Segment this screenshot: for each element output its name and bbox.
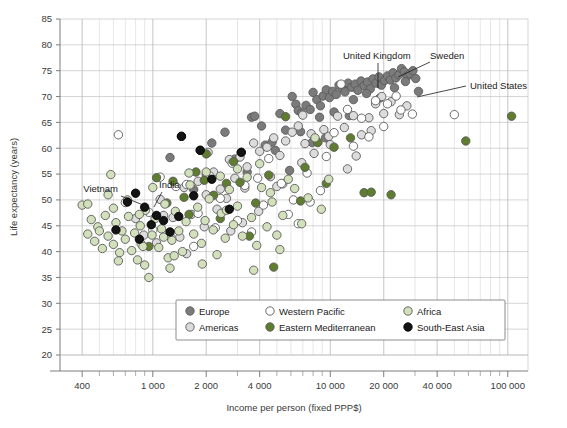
data-point bbox=[265, 171, 273, 179]
data-point bbox=[412, 74, 420, 82]
data-point bbox=[202, 168, 210, 176]
data-point bbox=[265, 154, 273, 162]
data-point bbox=[316, 186, 324, 194]
data-point bbox=[365, 133, 373, 141]
data-point bbox=[166, 228, 174, 236]
x-tick-label: 400 bbox=[74, 380, 90, 391]
data-point bbox=[322, 152, 330, 160]
data-point bbox=[104, 232, 112, 240]
data-point bbox=[507, 112, 515, 120]
data-point bbox=[330, 129, 338, 137]
annotation-label: Vietnam bbox=[83, 183, 118, 194]
legend[interactable]: EuropeWestern PacificAfricaAmericasEaste… bbox=[176, 300, 505, 340]
y-tick-label: 45 bbox=[41, 220, 52, 231]
x-tick-label: 1 000 bbox=[141, 380, 165, 391]
data-point bbox=[294, 122, 302, 130]
data-point bbox=[317, 205, 325, 213]
data-point bbox=[409, 66, 417, 74]
data-point bbox=[166, 153, 174, 161]
legend-label-americas[interactable]: Americas bbox=[199, 322, 239, 333]
legend-label-europe[interactable]: Europe bbox=[199, 306, 230, 317]
annotations: VietnamIndiaUnited KingdomSwedenUnited S… bbox=[83, 50, 527, 207]
data-point bbox=[352, 152, 360, 160]
x-tick-label: 10 000 bbox=[316, 380, 345, 391]
y-tick-label: 20 bbox=[41, 349, 52, 360]
data-point bbox=[380, 109, 388, 117]
data-point bbox=[190, 192, 198, 200]
data-point bbox=[392, 92, 400, 100]
data-point bbox=[252, 199, 260, 207]
data-point bbox=[276, 151, 284, 159]
data-point bbox=[178, 247, 186, 255]
y-tick-label: 55 bbox=[41, 168, 52, 179]
data-point bbox=[131, 189, 139, 197]
legend-swatch-europe bbox=[186, 307, 194, 315]
data-point bbox=[135, 210, 143, 218]
legend-label-western_pacific[interactable]: Western Pacific bbox=[279, 306, 345, 317]
data-point bbox=[182, 217, 190, 225]
data-point bbox=[145, 273, 153, 281]
data-point bbox=[197, 239, 205, 247]
y-tick-label: 75 bbox=[41, 65, 52, 76]
data-point bbox=[133, 256, 141, 264]
data-point bbox=[225, 205, 233, 213]
data-point bbox=[198, 260, 206, 268]
data-point bbox=[333, 112, 341, 120]
data-point bbox=[149, 183, 157, 191]
annotation-label: United States bbox=[470, 80, 527, 91]
data-point bbox=[380, 122, 388, 130]
data-point bbox=[114, 257, 122, 265]
x-tick-label: 40 000 bbox=[423, 380, 452, 391]
data-point bbox=[371, 96, 379, 104]
data-point bbox=[175, 212, 183, 220]
data-point bbox=[408, 110, 416, 118]
data-point bbox=[301, 139, 309, 147]
data-point bbox=[383, 100, 391, 108]
data-point bbox=[387, 191, 395, 199]
data-point bbox=[233, 165, 241, 173]
data-point bbox=[279, 211, 287, 219]
data-point bbox=[462, 137, 470, 145]
data-point bbox=[201, 216, 209, 224]
data-point bbox=[259, 201, 267, 209]
data-point bbox=[330, 143, 338, 151]
data-point bbox=[304, 194, 312, 202]
legend-swatch-eastern_mediterranean bbox=[266, 323, 274, 331]
legend-label-africa[interactable]: Africa bbox=[417, 306, 442, 317]
data-point bbox=[257, 122, 265, 130]
data-point bbox=[340, 123, 348, 131]
legend-label-south_east_asia[interactable]: South-East Asia bbox=[417, 322, 485, 333]
data-point bbox=[140, 261, 148, 269]
y-tick-label: 65 bbox=[41, 117, 52, 128]
data-point bbox=[208, 139, 216, 147]
data-point bbox=[221, 128, 229, 136]
data-point bbox=[237, 148, 245, 156]
y-axis-title: Life expectancy (years) bbox=[8, 138, 19, 236]
data-point bbox=[299, 111, 307, 119]
data-point bbox=[115, 248, 123, 256]
y-tick-label: 70 bbox=[41, 91, 52, 102]
data-point bbox=[186, 181, 194, 189]
data-point bbox=[229, 221, 237, 229]
data-point bbox=[367, 188, 375, 196]
data-point bbox=[190, 242, 198, 250]
legend-swatch-western_pacific bbox=[266, 307, 274, 315]
y-tick-label: 50 bbox=[41, 194, 52, 205]
data-point bbox=[263, 143, 271, 151]
data-point bbox=[221, 234, 229, 242]
data-points bbox=[78, 64, 516, 281]
data-point bbox=[310, 149, 318, 157]
legend-label-eastern_mediterranean[interactable]: Eastern Mediterranean bbox=[279, 322, 376, 333]
data-point bbox=[127, 246, 135, 254]
y-tick-label: 25 bbox=[41, 324, 52, 335]
data-point bbox=[84, 230, 92, 238]
data-point bbox=[112, 226, 120, 234]
data-point bbox=[357, 114, 365, 122]
data-point bbox=[362, 89, 370, 97]
data-point bbox=[290, 184, 298, 192]
data-point bbox=[114, 131, 122, 139]
x-tick-label: 4 000 bbox=[248, 380, 272, 391]
data-point bbox=[397, 106, 405, 114]
data-point bbox=[121, 235, 129, 243]
data-point bbox=[250, 112, 258, 120]
